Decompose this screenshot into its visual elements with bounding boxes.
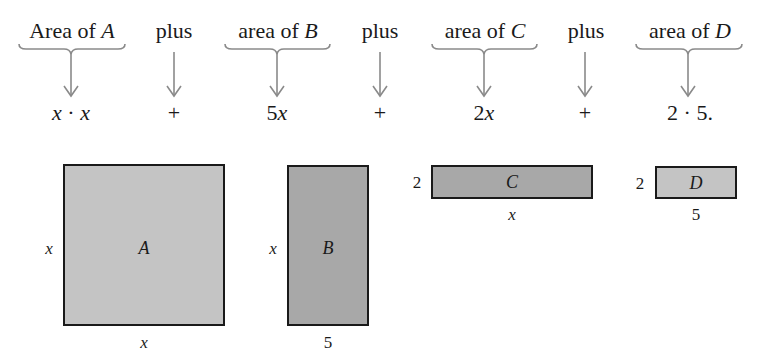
label-var: B — [304, 18, 317, 43]
rectangle-b-label: B — [323, 239, 334, 257]
rectangle-d-width-label: 5 — [692, 206, 701, 223]
rectangle-b-height-label: x — [269, 240, 277, 257]
label-var: C — [511, 18, 526, 43]
rectangle-c-height-label: 2 — [413, 174, 422, 191]
expr-part: x — [278, 100, 288, 125]
expr-part: + — [579, 100, 591, 125]
expr-c: 2x — [474, 102, 495, 124]
rectangle-d-label: D — [690, 174, 703, 192]
rectangle-a-label: A — [139, 239, 150, 257]
label-prefix: area of — [238, 18, 304, 43]
expr-d: 2 · 5. — [667, 102, 713, 124]
expr-part: + — [374, 100, 386, 125]
brace-b — [225, 44, 330, 54]
label-area-of-d: area of D — [649, 20, 731, 42]
expr-plus-1: + — [168, 102, 180, 124]
label-plus-2: plus — [362, 20, 399, 42]
rectangle-d-height-label: 2 — [636, 175, 645, 192]
brace-d — [636, 44, 742, 54]
label-var: D — [715, 18, 731, 43]
expr-part: x — [485, 100, 495, 125]
expr-part: 2 · 5. — [667, 100, 713, 125]
expr-part: x — [52, 100, 62, 125]
rectangle-b-width-label: 5 — [324, 334, 333, 351]
expr-part: 2 — [474, 100, 485, 125]
label-prefix: plus — [362, 18, 399, 43]
brace-c — [432, 44, 537, 54]
rectangle-c-width-label: x — [508, 206, 516, 223]
label-prefix: plus — [568, 18, 605, 43]
rectangle-a-width-label: x — [140, 334, 148, 351]
expr-b: 5x — [267, 102, 288, 124]
expr-part: + — [168, 100, 180, 125]
expr-part: 5 — [267, 100, 278, 125]
expr-plus-3: + — [579, 102, 591, 124]
label-prefix: Area of — [29, 18, 101, 43]
expr-part: x — [80, 100, 90, 125]
label-area-of-c: area of C — [445, 20, 526, 42]
label-prefix: area of — [445, 18, 511, 43]
label-prefix: area of — [649, 18, 715, 43]
label-prefix: plus — [156, 18, 193, 43]
rectangle-a-height-label: x — [45, 240, 53, 257]
rectangle-c-label: C — [506, 173, 518, 191]
expr-a: x · x — [52, 102, 90, 124]
label-var: A — [101, 18, 114, 43]
label-area-of-a: Area of A — [29, 20, 115, 42]
expr-plus-2: + — [374, 102, 386, 124]
expr-part: · — [62, 100, 80, 125]
label-plus-3: plus — [568, 20, 605, 42]
label-area-of-b: area of B — [238, 20, 317, 42]
brace-a — [19, 44, 125, 54]
label-plus-1: plus — [156, 20, 193, 42]
